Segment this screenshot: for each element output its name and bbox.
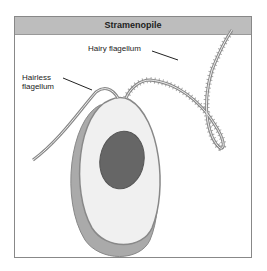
hairless-flagellum-label: Hairless flagellum (22, 73, 54, 91)
stramenopile-illustration (0, 0, 267, 271)
hairy-flagellum-label: Hairy flagellum (88, 44, 141, 53)
